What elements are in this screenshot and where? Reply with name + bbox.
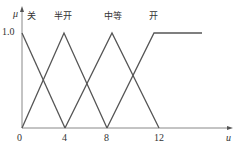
x-axis-arrow-icon bbox=[227, 126, 233, 130]
series-zhongdeng-line bbox=[65, 33, 159, 128]
y-tick-label-1: 1.0 bbox=[2, 27, 15, 37]
x-tick-label-4: 4 bbox=[62, 133, 67, 143]
membership-function-chart: μ 1.0 关 半开 中等 开 0 4 8 12 u bbox=[0, 0, 242, 151]
series-label-banka: 半开 bbox=[54, 11, 72, 21]
y-axis-arrow-icon bbox=[20, 6, 24, 12]
series-label-zhongdeng: 中等 bbox=[104, 11, 122, 21]
chart-plot bbox=[0, 0, 242, 151]
y-axis-label: μ bbox=[13, 9, 18, 19]
x-tick-label-12: 12 bbox=[154, 133, 164, 143]
x-tick-label-0: 0 bbox=[17, 133, 22, 143]
series-kai-line bbox=[107, 33, 202, 128]
x-tick-label-8: 8 bbox=[104, 133, 109, 143]
series-label-guan: 关 bbox=[27, 11, 36, 21]
x-axis-label: u bbox=[226, 133, 231, 143]
series-label-kai: 开 bbox=[149, 11, 158, 21]
series-banka-line bbox=[22, 33, 107, 128]
